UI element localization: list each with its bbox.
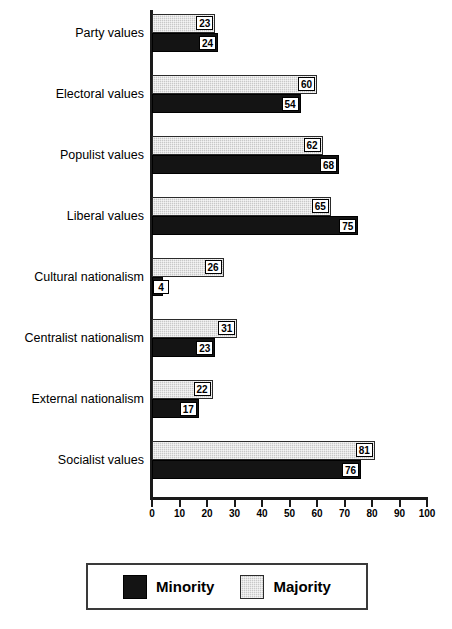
bar-value-label: 24	[199, 36, 216, 50]
category-label: Party values	[0, 26, 144, 40]
bars-wrapper: 3123	[152, 319, 452, 357]
x-tick-mark	[399, 500, 401, 507]
bar-group: Populist values6268	[0, 136, 452, 174]
bar-minority[interactable]	[152, 155, 339, 174]
x-tick-label: 70	[330, 508, 360, 520]
bar-group: External nationalism2217	[0, 380, 452, 418]
legend-entry[interactable]: Minority	[123, 575, 214, 599]
bar-value-label: 26	[205, 260, 222, 274]
category-label: External nationalism	[0, 392, 144, 406]
category-label: Centralist nationalism	[0, 331, 144, 345]
category-label: Electoral values	[0, 87, 144, 101]
chart-legend: MinorityMajority	[86, 563, 368, 610]
category-label: Populist values	[0, 148, 144, 162]
x-tick-mark	[316, 500, 318, 507]
x-tick-mark	[179, 500, 181, 507]
x-tick-mark	[344, 500, 346, 507]
x-tick-label: 10	[165, 508, 195, 520]
x-tick-label: 40	[247, 508, 277, 520]
legend-swatch-minority	[123, 575, 147, 599]
x-tick-label: 80	[357, 508, 387, 520]
plot-area: 0102030405060708090100 Party values2324E…	[0, 0, 452, 510]
bar-value-label: 23	[196, 341, 213, 355]
category-label: Cultural nationalism	[0, 270, 144, 284]
x-tick-label: 90	[385, 508, 415, 520]
bar-value-label: 60	[298, 77, 315, 91]
bars-wrapper: 2324	[152, 14, 452, 52]
bar-value-label: 31	[218, 321, 235, 335]
x-tick-mark	[151, 500, 153, 507]
bar-value-label: 62	[304, 138, 321, 152]
x-tick-label: 100	[412, 508, 442, 520]
bars-wrapper: 264	[152, 258, 452, 296]
bar-value-label: 81	[356, 443, 373, 457]
bar-group: Party values2324	[0, 14, 452, 52]
x-tick-label: 20	[192, 508, 222, 520]
bars-wrapper: 8176	[152, 441, 452, 479]
x-tick-mark	[289, 500, 291, 507]
bars-wrapper: 2217	[152, 380, 452, 418]
x-tick-label: 0	[137, 508, 167, 520]
bar-value-label: 65	[312, 199, 329, 213]
x-tick-label: 60	[302, 508, 332, 520]
bar-majority[interactable]	[152, 441, 375, 460]
bars-wrapper: 6054	[152, 75, 452, 113]
bar-value-label: 4	[153, 280, 169, 294]
bar-group: Liberal values6575	[0, 197, 452, 235]
bar-majority[interactable]	[152, 197, 331, 216]
bar-chart: 0102030405060708090100 Party values2324E…	[0, 0, 452, 629]
bar-group: Electoral values6054	[0, 75, 452, 113]
category-label: Socialist values	[0, 453, 144, 467]
legend-swatch-majority	[240, 575, 264, 599]
bar-minority[interactable]	[152, 460, 361, 479]
bars-wrapper: 6268	[152, 136, 452, 174]
legend-label: Majority	[273, 578, 331, 595]
bar-group: Socialist values8176	[0, 441, 452, 479]
x-tick-mark	[426, 500, 428, 507]
bar-minority[interactable]	[152, 216, 358, 235]
x-tick-label: 50	[275, 508, 305, 520]
x-tick-mark	[371, 500, 373, 507]
bar-value-label: 75	[339, 219, 356, 233]
x-tick-mark	[261, 500, 263, 507]
bar-majority[interactable]	[152, 136, 323, 155]
legend-entry[interactable]: Majority	[240, 575, 331, 599]
category-label: Liberal values	[0, 209, 144, 223]
bar-value-label: 68	[320, 158, 337, 172]
bar-majority[interactable]	[152, 75, 317, 94]
bar-value-label: 23	[196, 16, 213, 30]
bar-value-label: 17	[180, 402, 197, 416]
x-tick-mark	[206, 500, 208, 507]
bar-value-label: 54	[282, 97, 299, 111]
bar-value-label: 76	[342, 463, 359, 477]
x-tick-mark	[234, 500, 236, 507]
bar-group: Centralist nationalism3123	[0, 319, 452, 357]
bar-value-label: 22	[194, 382, 211, 396]
legend-label: Minority	[156, 578, 214, 595]
bars-wrapper: 6575	[152, 197, 452, 235]
x-tick-label: 30	[220, 508, 250, 520]
bar-group: Cultural nationalism264	[0, 258, 452, 296]
bar-minority[interactable]	[152, 94, 301, 113]
